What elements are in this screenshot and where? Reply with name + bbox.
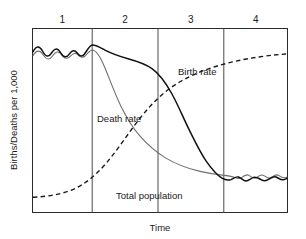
birth-rate-curve bbox=[33, 45, 287, 181]
birth-rate-label: Birth rate bbox=[178, 66, 217, 77]
y-axis-title: Births/Deaths per 1,000 bbox=[8, 70, 19, 170]
stage-label-3: 3 bbox=[188, 14, 194, 25]
stage-label-4: 4 bbox=[253, 14, 259, 25]
stage-label-2: 2 bbox=[122, 14, 128, 25]
chart-canvas: 1 2 3 4 Birth rate Death rate Total popu… bbox=[0, 0, 306, 239]
stage-label-1: 1 bbox=[60, 14, 66, 25]
x-axis-title: Time bbox=[150, 222, 171, 233]
demographic-transition-chart: 1 2 3 4 Birth rate Death rate Total popu… bbox=[0, 0, 306, 239]
total-population-label: Total population bbox=[116, 190, 183, 201]
death-rate-label: Death rate bbox=[97, 113, 141, 124]
death-rate-curve bbox=[33, 50, 287, 179]
